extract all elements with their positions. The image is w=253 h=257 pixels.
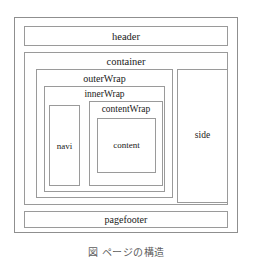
navi-block: navi (49, 105, 80, 186)
side-block: side (177, 69, 228, 203)
content-block-label: content (98, 141, 155, 150)
side-block-label: side (178, 131, 227, 141)
contentwrap-block-label: contentWrap (90, 105, 162, 115)
pagefooter-block-label: pagefooter (25, 215, 227, 225)
outerwrap-block-label: outerWrap (37, 74, 172, 84)
header-block: header (24, 26, 228, 46)
pagefooter-block: pagefooter (24, 211, 228, 228)
navi-block-label: navi (50, 142, 79, 151)
layout-structure-diagram: header container outerWrap innerWrap nav… (0, 0, 253, 257)
container-block-label: container (25, 57, 227, 68)
content-block: content (97, 118, 156, 173)
header-block-label: header (25, 32, 227, 43)
innerwrap-block-label: innerWrap (45, 90, 164, 100)
figure-caption: 図 ページの構造 (0, 246, 253, 257)
